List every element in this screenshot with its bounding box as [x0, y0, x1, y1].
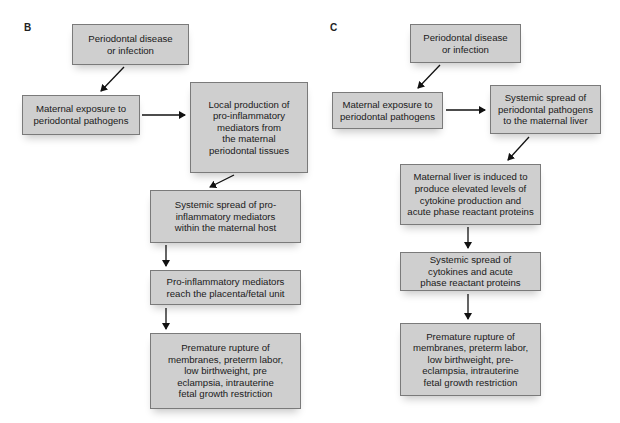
b-arrow-disease-to-exposure [101, 67, 124, 91]
b-arrow-local-to-systemic [210, 175, 234, 187]
c-arrow-spread-to-liver [508, 137, 529, 160]
c-arrow-disease-to-exposure [418, 65, 440, 88]
flow-arrows [0, 0, 620, 423]
